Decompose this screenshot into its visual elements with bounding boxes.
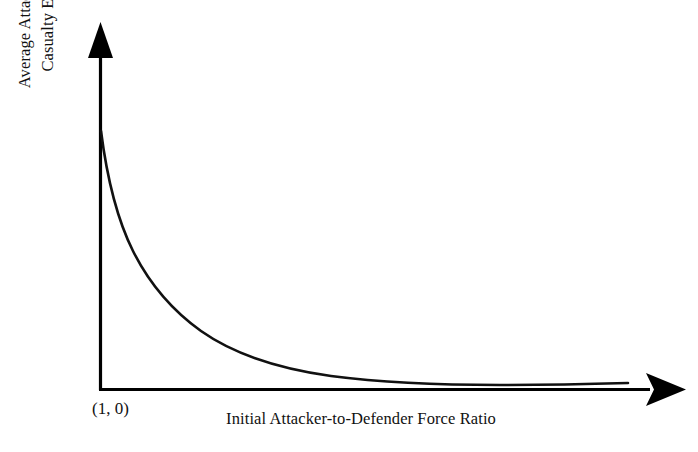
- y-axis-title-line-1: Average Attacker-to-Defender: [14, 0, 37, 132]
- origin-coordinate-label: (1, 0): [92, 399, 129, 419]
- x-axis-arrowhead-icon: [646, 373, 686, 406]
- chart-plot-area: [0, 0, 698, 452]
- y-axis-title: Average Attacker-to-Defender Casualty Ex…: [14, 0, 74, 132]
- casualty-exchange-ratio-curve: [101, 131, 628, 385]
- figure-container: Average Attacker-to-Defender Casualty Ex…: [0, 0, 698, 452]
- y-axis-title-line-2: Casualty Exchange Ratio: [37, 0, 60, 132]
- x-axis-title: Initial Attacker-to-Defender Force Ratio: [176, 409, 546, 429]
- y-axis-arrowhead-icon: [88, 22, 113, 58]
